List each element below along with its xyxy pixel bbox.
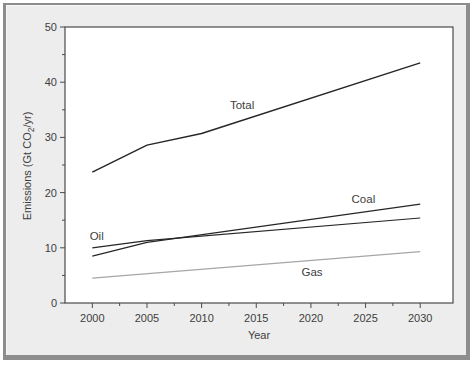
x-tick-label-2030: 2030 [408, 312, 432, 324]
y-tick-label-10: 10 [45, 242, 57, 254]
emissions-chart: 200020052010201520202025203001020304050T… [0, 0, 474, 366]
figure: 200020052010201520202025203001020304050T… [0, 0, 474, 366]
x-axis-title: Year [248, 329, 271, 341]
x-tick-label-2000: 2000 [80, 312, 104, 324]
series-label-coal: Coal [352, 193, 376, 205]
series-label-total: Total [230, 99, 254, 111]
plot-group: 200020052010201520202025203001020304050T… [45, 21, 453, 324]
x-tick-label-2015: 2015 [244, 312, 268, 324]
x-tick-label-2010: 2010 [189, 312, 213, 324]
y-axis-title-suffix: /yr) [21, 112, 33, 128]
series-label-oil: Oil [90, 230, 104, 242]
y-tick-label-50: 50 [45, 21, 57, 33]
x-tick-label-2005: 2005 [135, 312, 159, 324]
plot-area [65, 27, 453, 303]
series-label-gas: Gas [301, 266, 322, 278]
x-tick-label-2025: 2025 [353, 312, 377, 324]
y-tick-label-0: 0 [51, 297, 57, 309]
y-tick-label-30: 30 [45, 131, 57, 143]
x-tick-label-2020: 2020 [299, 312, 323, 324]
y-axis-title: Emissions (Gt CO2/yr) [21, 112, 36, 221]
y-tick-label-20: 20 [45, 187, 57, 199]
y-axis-title-prefix: Emissions (Gt CO [21, 132, 33, 220]
y-tick-label-40: 40 [45, 76, 57, 88]
